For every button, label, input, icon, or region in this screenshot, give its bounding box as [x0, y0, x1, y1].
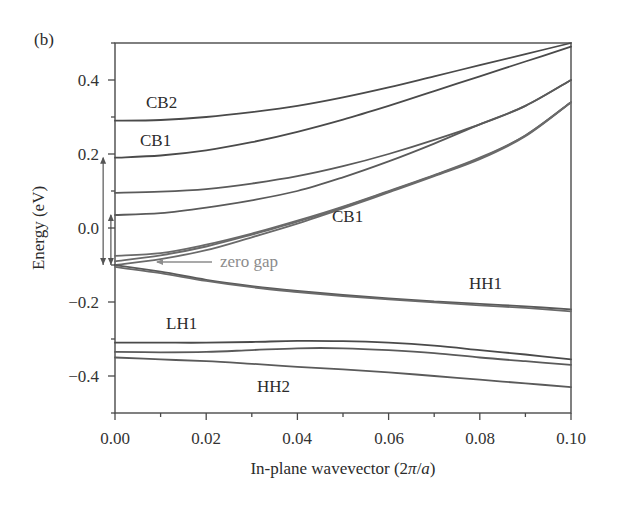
band-curve-cb1-lower-a [115, 102, 571, 256]
axes-frame [115, 43, 571, 413]
label-cb1-upper: CB1 [140, 131, 171, 150]
x-tick-labels: 0.00 0.02 0.04 0.06 0.08 0.10 [100, 429, 586, 448]
x-axis-ticks [115, 413, 571, 420]
y-tick-label: −0.4 [68, 367, 99, 386]
x-tick-label: 0.00 [100, 429, 130, 448]
x-tick-label: 0.10 [556, 429, 586, 448]
y-tick-labels: 0.4 0.2 0.0 −0.2 −0.4 [68, 71, 99, 386]
band-curve-cb1-lower-b [115, 102, 571, 261]
x-axis-title: In-plane wavevector (2π/a) [250, 459, 435, 478]
label-hh2: HH2 [257, 377, 290, 396]
arrow-head-down-icon [108, 258, 114, 265]
y-tick-label: 0.2 [78, 145, 99, 164]
band-curve-cb1 [115, 47, 571, 158]
y-tick-label: 0.0 [78, 219, 99, 238]
band-structure-chart: (b) 0.00 0.02 0.04 0.06 0.08 0.10 0.4 0.… [0, 0, 618, 506]
band-curve-lh1 [115, 341, 571, 360]
energy-gap-arrows [100, 158, 114, 265]
x-tick-label: 0.08 [465, 429, 495, 448]
x-tick-label: 0.04 [282, 429, 312, 448]
label-cb1-lower: CB1 [332, 207, 363, 226]
zero-gap-label: zero gap [220, 252, 278, 271]
y-axis-ticks [108, 43, 115, 413]
zero-gap-annotation: zero gap [157, 252, 278, 271]
arrow-head-down-icon [100, 258, 106, 265]
panel-label: (b) [34, 30, 54, 49]
label-hh1: HH1 [469, 274, 502, 293]
x-tick-label: 0.06 [374, 429, 404, 448]
band-curve-hh1 [115, 265, 571, 309]
band-curve-zero-gap-branch [115, 102, 571, 265]
y-axis-title: Energy (eV) [29, 186, 48, 270]
x-tick-label: 0.02 [191, 429, 221, 448]
y-tick-label: 0.4 [78, 71, 100, 90]
label-cb2: CB2 [146, 93, 177, 112]
band-curve-hh2 [115, 358, 571, 388]
band-curve-cb2 [115, 43, 571, 121]
band-curve-band-lh-2 [115, 348, 571, 365]
y-tick-label: −0.2 [68, 293, 99, 312]
label-lh1: LH1 [166, 314, 197, 333]
